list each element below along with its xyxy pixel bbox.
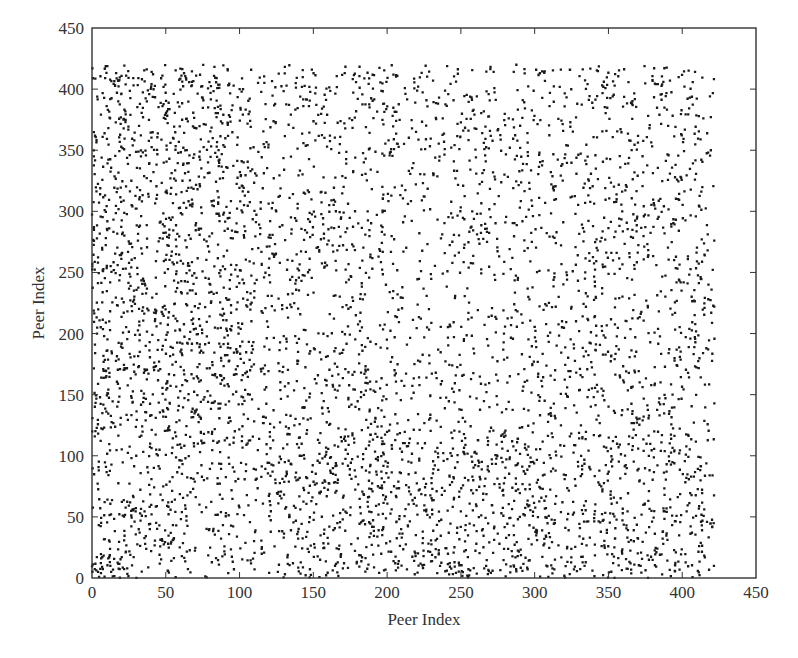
- y-tick-label: 400: [59, 80, 85, 99]
- y-tick-label: 250: [59, 263, 85, 282]
- y-tick-label: 0: [76, 569, 85, 588]
- x-tick-label: 350: [596, 583, 622, 602]
- x-tick-label: 400: [669, 583, 695, 602]
- x-tick-label: 50: [157, 583, 174, 602]
- y-tick-label: 50: [67, 508, 84, 527]
- x-tick-label: 450: [743, 583, 769, 602]
- y-tick-label: 450: [59, 19, 85, 38]
- x-tick-label: 250: [448, 583, 474, 602]
- y-tick-label: 350: [59, 141, 85, 160]
- x-tick-label: 200: [374, 583, 400, 602]
- data-points: [91, 64, 716, 580]
- y-axis-title: Peer Index: [29, 266, 48, 340]
- x-tick-label: 300: [522, 583, 548, 602]
- y-tick-label: 150: [59, 386, 85, 405]
- x-tick-label: 0: [88, 583, 97, 602]
- y-tick-label: 300: [59, 202, 85, 221]
- x-axis-title: Peer Index: [387, 610, 461, 629]
- y-tick-label: 100: [59, 447, 85, 466]
- plot-frame: [92, 28, 756, 578]
- x-tick-label: 100: [227, 583, 253, 602]
- y-tick-label: 200: [59, 325, 85, 344]
- scatter-chart: 050100150200250300350400450 050100150200…: [0, 0, 798, 658]
- x-tick-label: 150: [301, 583, 327, 602]
- scatter-markers: [91, 64, 716, 580]
